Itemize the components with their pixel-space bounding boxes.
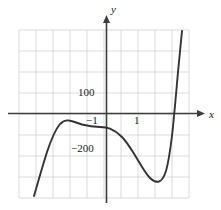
polynomial-graph-svg: 100 −200 −1 1 y x [0, 0, 221, 210]
x-tick-label-minus-1: −1 [86, 114, 98, 126]
y-tick-label-100: 100 [78, 86, 95, 98]
x-axis-title: x [208, 108, 214, 120]
figure-background [0, 0, 221, 210]
y-axis-title: y [110, 3, 116, 15]
y-tick-label-minus-200: −200 [71, 142, 94, 154]
graph-figure: 100 −200 −1 1 y x [0, 0, 221, 210]
x-tick-label-1: 1 [134, 114, 140, 126]
